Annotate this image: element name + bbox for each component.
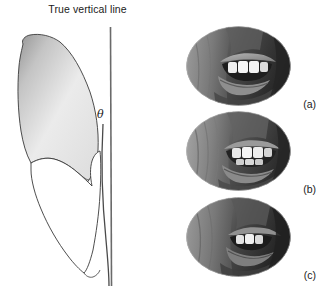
true-vertical-line: [111, 27, 112, 286]
teeth-row-c: [236, 234, 263, 244]
photo-caption-c: (c): [304, 269, 316, 281]
tooth-root-tip: [84, 270, 100, 277]
tooth-root-shape: [31, 151, 101, 273]
figure-root: True vertical line: [0, 0, 326, 294]
tooth-axis-line: [102, 124, 109, 286]
photo-oval-a: [186, 26, 291, 106]
photo-caption-a: (a): [303, 98, 316, 110]
diagram-graphics: [0, 0, 180, 294]
theta-angle-label: θ: [97, 108, 104, 121]
photo-caption-b: (b): [303, 183, 316, 195]
tooth-inclination-diagram: True vertical line: [0, 0, 180, 294]
photo-row-b: (b): [182, 111, 326, 197]
photo-row-a: (a): [182, 26, 326, 112]
photo-oval-c: [186, 197, 291, 277]
photo-row-c: (c): [182, 197, 326, 283]
photo-column: (a): [182, 0, 326, 294]
photo-oval-b: [186, 111, 291, 191]
